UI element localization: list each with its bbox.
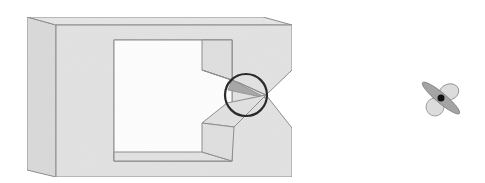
top-face (27, 17, 292, 25)
frame-diagram (0, 0, 485, 183)
frame-block (27, 17, 292, 177)
propeller-symbol (419, 79, 462, 118)
left-side-face (27, 17, 56, 177)
center-dot (438, 95, 445, 102)
figure-canvas (0, 0, 485, 183)
